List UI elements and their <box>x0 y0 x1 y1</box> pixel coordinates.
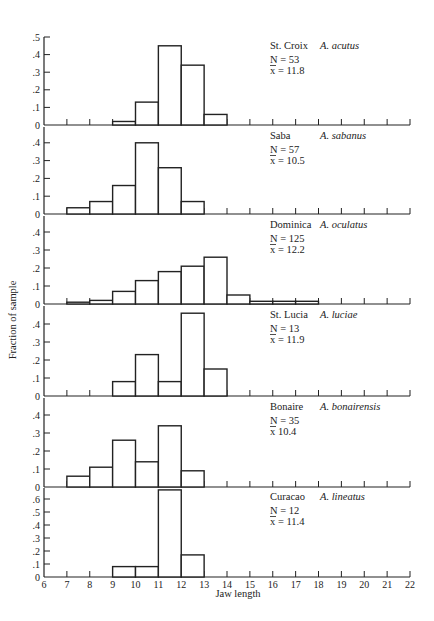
histogram-bar <box>181 202 204 214</box>
panel-st-lucia: 0.1.2.3.4St. LuciaA. luciaeN = 13x = 11.… <box>33 306 411 402</box>
x-tick-label: 8 <box>87 579 92 590</box>
histogram-bar <box>136 281 159 304</box>
island-label: Bonaire <box>270 401 304 412</box>
y-tick-label: .3 <box>33 245 41 256</box>
y-tick-label: 0 <box>35 120 40 131</box>
histogram-bar <box>67 302 90 304</box>
island-label: St. Croix <box>270 40 309 51</box>
mean-label: x = 12.2 <box>270 244 305 255</box>
n-label: N = 53 <box>270 54 299 65</box>
panel-curacao: 0.1.2.3.4.5.6CuracaoA. lineatusN = 12x =… <box>33 488 411 583</box>
species-label: A. acutus <box>319 40 359 51</box>
y-tick-label: .2 <box>33 446 41 457</box>
mean-label: x = 11.9 <box>270 334 304 345</box>
histogram-bar <box>90 467 113 487</box>
y-tick-label: .1 <box>33 373 41 384</box>
histogram-bar <box>227 295 250 304</box>
x-tick-label: 19 <box>336 579 346 590</box>
y-tick-label: 0 <box>35 482 40 493</box>
histogram-bar <box>158 46 181 125</box>
y-tick-label: .1 <box>33 191 41 202</box>
y-tick-label: .1 <box>33 464 41 475</box>
n-label: N = 35 <box>270 415 299 426</box>
y-tick-label: .3 <box>33 533 41 544</box>
y-tick-label: .2 <box>33 84 41 95</box>
x-tick-label: 11 <box>154 579 164 590</box>
histogram-bar <box>90 300 113 304</box>
species-label: A. oculatus <box>319 219 367 230</box>
x-tick-label: 20 <box>359 579 369 590</box>
histogram-bar <box>136 567 159 577</box>
panel-dominica: 0.1.2.3.4DominicaA. oculatusN = 125x = 1… <box>33 216 411 310</box>
x-tick-label: 10 <box>131 579 141 590</box>
x-tick-label: 12 <box>176 579 186 590</box>
histogram-bar <box>136 143 159 214</box>
species-label: A. luciae <box>319 309 358 320</box>
histogram-bar <box>204 114 227 125</box>
y-tick-label: .4 <box>33 227 41 238</box>
histogram-bar <box>67 476 90 487</box>
island-label: St. Lucia <box>270 309 308 320</box>
histogram-bar <box>67 208 90 214</box>
island-label: Saba <box>270 130 291 141</box>
panel-st-croix: 0.1.2.3.4.5St. CroixA. acutusN = 53x = 1… <box>33 32 411 131</box>
y-tick-label: 0 <box>35 391 40 402</box>
y-tick-label: .1 <box>33 102 41 113</box>
species-label: A. sabanus <box>319 130 366 141</box>
histogram-bar <box>113 382 136 396</box>
x-tick-label: 18 <box>314 579 324 590</box>
histogram-bar <box>158 272 181 304</box>
island-label: Dominica <box>270 219 312 230</box>
x-tick-label: 17 <box>291 579 301 590</box>
n-label: N = 13 <box>270 323 299 334</box>
y-tick-label: .2 <box>33 263 41 274</box>
x-tick-label: 6 <box>42 579 47 590</box>
y-tick-label: .3 <box>33 428 41 439</box>
panels: 0.1.2.3.4.5St. CroixA. acutusN = 53x = 1… <box>33 32 416 591</box>
histogram-bar <box>113 440 136 487</box>
histogram-bar <box>204 369 227 396</box>
histogram-bar <box>136 462 159 487</box>
y-axis-title: Fraction of sample <box>7 280 18 359</box>
histogram-bar <box>181 65 204 125</box>
histogram-bar <box>296 301 319 304</box>
n-label: N = 57 <box>270 144 299 155</box>
y-tick-label: .3 <box>33 337 41 348</box>
mean-label: x = 10.5 <box>270 155 305 166</box>
y-tick-label: .4 <box>33 520 41 531</box>
histogram-bar <box>113 121 136 125</box>
x-tick-label: 9 <box>110 579 115 590</box>
y-tick-label: 0 <box>35 209 40 220</box>
y-tick-label: .2 <box>33 173 41 184</box>
mean-label: x = 11.4 <box>270 516 305 527</box>
panel-bonaire: 0.1.2.3.4BonaireA. bonairensisN = 35x 10… <box>33 398 411 493</box>
histogram-bar <box>113 567 136 577</box>
y-tick-label: .4 <box>33 410 41 421</box>
histogram-bar <box>181 313 204 396</box>
histogram-bar <box>136 102 159 125</box>
histogram-bar <box>181 266 204 304</box>
histogram-bar <box>250 301 273 304</box>
chart: 0.1.2.3.4.5St. CroixA. acutusN = 53x = 1… <box>0 0 434 621</box>
x-tick-label: 21 <box>382 579 392 590</box>
histogram-bar <box>90 202 113 214</box>
n-label: N = 125 <box>270 233 305 244</box>
x-axis-title: Jaw length <box>215 588 261 599</box>
y-tick-label: .2 <box>33 546 41 557</box>
y-tick-label: .4 <box>33 319 41 330</box>
histogram-bar <box>158 490 181 577</box>
histogram-bar <box>158 382 181 396</box>
y-tick-label: .4 <box>33 137 41 148</box>
y-tick-label: .5 <box>33 32 41 43</box>
histogram-bar <box>113 291 136 304</box>
x-tick-label: 13 <box>199 579 209 590</box>
histogram-bar <box>113 186 136 214</box>
x-tick-label: 22 <box>405 579 415 590</box>
y-tick-label: .3 <box>33 155 41 166</box>
histogram-bar <box>181 471 204 487</box>
species-label: A. lineatus <box>319 491 365 502</box>
y-tick-label: 0 <box>35 299 40 310</box>
y-tick-label: .6 <box>33 494 41 505</box>
mean-label: x = 11.8 <box>270 65 304 76</box>
n-label: N = 12 <box>270 505 299 516</box>
